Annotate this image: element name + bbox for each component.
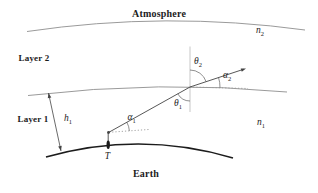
layer-boundary-curve [28, 87, 287, 96]
theta1-subscript: 1 [179, 103, 182, 110]
n2-subscript: 2 [261, 30, 264, 37]
theta1-label: θ1 [174, 99, 182, 110]
alpha2-label: α2 [223, 71, 231, 82]
t-point-marker [107, 141, 110, 149]
t-point-label: T [105, 152, 110, 162]
h1-subscript: 1 [69, 118, 72, 125]
earth-label: Earth [133, 169, 159, 179]
n2-label: n2 [256, 26, 264, 37]
h1-measure-line [49, 93, 62, 151]
layer2-label: Layer 2 [19, 54, 50, 63]
n1-subscript: 1 [262, 122, 265, 129]
alpha1-label: α1 [127, 113, 135, 124]
alpha2-subscript: 2 [228, 75, 231, 82]
h1-label: h1 [64, 114, 72, 125]
alpha1-subscript: 1 [132, 117, 135, 124]
ray-diagram-canvas [0, 0, 318, 193]
theta2-label: θ2 [194, 57, 202, 68]
horizontal-dotted-lower [109, 130, 149, 133]
theta2-subscript: 2 [199, 61, 202, 68]
atmosphere-label: Atmosphere [132, 9, 186, 19]
layer1-label: Layer 1 [18, 114, 49, 123]
n1-label: n1 [257, 118, 265, 129]
refraction-diagram: Atmosphere n2 Layer 2 θ2 α2 θ1 Layer 1 h… [0, 0, 318, 193]
earth-curve [46, 144, 233, 158]
theta2-arc [190, 70, 206, 82]
refracted-ray-arrowhead [241, 68, 246, 71]
alpha2-arc [219, 78, 221, 88]
